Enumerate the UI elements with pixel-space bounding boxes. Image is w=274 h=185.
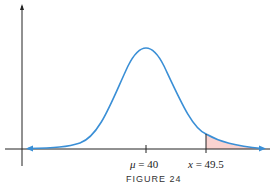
shaded-tail-region: [206, 134, 262, 149]
curve-right-arrow-icon: [259, 146, 266, 152]
cutoff-value: = 49.5: [196, 158, 224, 170]
cutoff-symbol: x: [188, 158, 193, 170]
mean-symbol: μ: [130, 158, 136, 170]
figure-caption: FIGURE 24: [126, 174, 182, 184]
cutoff-label: x = 49.5: [188, 158, 224, 170]
normal-curve: [28, 48, 262, 149]
y-axis-arrow-icon: [20, 4, 24, 10]
mean-value: = 40: [138, 158, 158, 170]
mean-label: μ = 40: [130, 158, 158, 170]
curve-left-arrow-icon: [26, 146, 33, 152]
